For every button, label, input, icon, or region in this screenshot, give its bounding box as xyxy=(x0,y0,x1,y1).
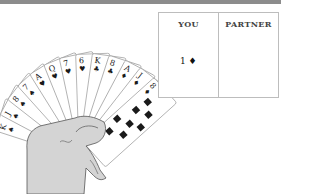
bid-column-you: YOU 1 ♦ xyxy=(159,13,218,97)
bid-entry: 1 ♦ xyxy=(180,56,197,66)
bid-column-partner: PARTNER xyxy=(218,13,278,97)
bidding-table: YOU 1 ♦ PARTNER xyxy=(158,12,279,98)
card-rank: 6 xyxy=(79,56,84,65)
card-suit-icon: ♣ xyxy=(93,65,100,74)
bid-column-header: YOU xyxy=(159,19,218,29)
card-suit-icon: ♥ xyxy=(79,65,86,73)
bid-column-header: PARTNER xyxy=(219,19,278,29)
hand-icon xyxy=(27,116,106,194)
